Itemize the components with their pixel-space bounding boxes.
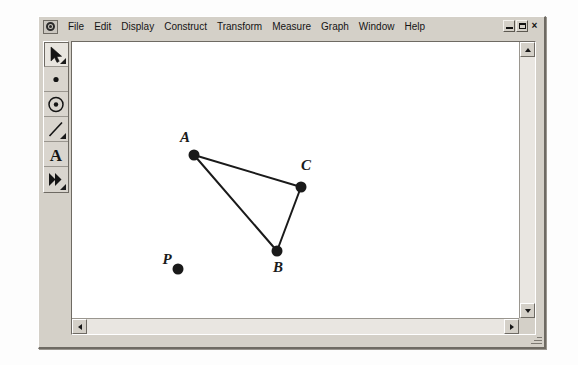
- menu-item-file[interactable]: File: [63, 20, 89, 35]
- svg-text:A: A: [50, 146, 63, 165]
- point-P[interactable]: [173, 264, 184, 275]
- close-icon: ×: [529, 20, 540, 31]
- window-resize-grip[interactable]: [530, 333, 542, 345]
- compass-circle-tool[interactable]: [44, 92, 68, 117]
- sketch-canvas[interactable]: ABCP: [72, 42, 519, 318]
- minimize-icon: [506, 27, 513, 29]
- tool-popup-indicator-custom[interactable]: [60, 184, 66, 190]
- letter-a-icon: A: [46, 144, 66, 165]
- menu-item-help[interactable]: Help: [399, 20, 430, 35]
- application-window: FileEditDisplayConstructTransformMeasure…: [38, 16, 546, 349]
- geometry-drawing: ABCP: [72, 42, 519, 318]
- scrollbar-corner: [519, 318, 535, 334]
- text-tool[interactable]: A: [44, 142, 68, 167]
- point-label-P[interactable]: P: [162, 251, 172, 267]
- horizontal-scrollbar[interactable]: [72, 318, 519, 334]
- segment-BC[interactable]: [277, 187, 301, 251]
- point-tool[interactable]: [44, 67, 68, 92]
- menu-item-graph[interactable]: Graph: [316, 20, 354, 35]
- point-C[interactable]: [296, 182, 307, 193]
- window-controls: ×: [503, 20, 540, 32]
- scroll-up-button[interactable]: [520, 42, 535, 57]
- selection-arrow-tool[interactable]: [44, 42, 68, 67]
- app-icon-glyph: [46, 22, 55, 31]
- point-label-B[interactable]: B: [272, 259, 283, 275]
- segment-AB[interactable]: [194, 155, 277, 251]
- segment-AC[interactable]: [194, 155, 301, 187]
- menu-item-display[interactable]: Display: [116, 20, 159, 35]
- menu-item-transform[interactable]: Transform: [212, 20, 267, 35]
- scroll-left-button[interactable]: [72, 319, 87, 334]
- sketchpad-app-icon[interactable]: [43, 20, 58, 34]
- tool-palette: A: [43, 41, 69, 193]
- menu-item-measure[interactable]: Measure: [267, 20, 316, 35]
- close-button[interactable]: ×: [529, 20, 540, 32]
- menu-item-construct[interactable]: Construct: [159, 20, 212, 35]
- tool-popup-indicator-arrow[interactable]: [60, 58, 66, 64]
- sketch-document-pane: A ABCP: [43, 39, 538, 337]
- scroll-down-arrow-icon: [525, 309, 531, 313]
- custom-tool[interactable]: [44, 167, 68, 192]
- scroll-up-arrow-icon: [525, 48, 531, 52]
- tool-popup-indicator-straightedge[interactable]: [60, 133, 66, 139]
- minimize-button[interactable]: [503, 20, 515, 32]
- menu-item-edit[interactable]: Edit: [89, 20, 116, 35]
- scroll-down-button[interactable]: [520, 303, 535, 318]
- sketch-canvas-frame: ABCP: [71, 41, 536, 335]
- menu-bar: FileEditDisplayConstructTransformMeasure…: [39, 17, 544, 37]
- scroll-left-arrow-icon: [78, 324, 82, 330]
- point-B[interactable]: [272, 246, 283, 257]
- point-label-C[interactable]: C: [301, 157, 312, 173]
- circle-icon: [46, 94, 66, 115]
- point-label-A[interactable]: A: [179, 129, 190, 145]
- scroll-right-arrow-icon: [510, 324, 514, 330]
- restore-button[interactable]: [516, 20, 528, 32]
- scroll-right-button[interactable]: [504, 319, 519, 334]
- straightedge-tool[interactable]: [44, 117, 68, 142]
- menu-item-window[interactable]: Window: [354, 20, 400, 35]
- vertical-scrollbar[interactable]: [519, 42, 535, 318]
- point-icon: [46, 69, 66, 90]
- restore-icon: [519, 23, 526, 29]
- point-A[interactable]: [189, 150, 200, 161]
